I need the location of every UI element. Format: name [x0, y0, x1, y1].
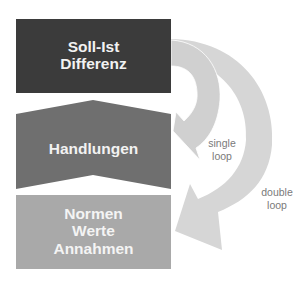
soll-ist-line-2: Differenz — [16, 55, 171, 72]
soll-ist-line-1: Soll-Ist — [16, 38, 171, 55]
handlungen-line-1: Handlungen — [16, 140, 171, 157]
soll-ist-label: Soll-Ist Differenz — [16, 38, 171, 73]
normen-label: Normen Werte Annahmen — [16, 205, 171, 257]
handlungen-label: Handlungen — [16, 140, 171, 157]
normen-line-3: Annahmen — [16, 240, 171, 257]
double-loop-line-1: double — [254, 186, 300, 199]
double-loop-label: double loop — [254, 186, 300, 212]
single-loop-line-2: loop — [200, 150, 244, 163]
normen-line-1: Normen — [16, 205, 171, 222]
normen-line-2: Werte — [16, 222, 171, 239]
single-loop-line-1: single — [200, 137, 244, 150]
double-loop-line-2: loop — [254, 199, 300, 212]
single-loop-label: single loop — [200, 137, 244, 163]
